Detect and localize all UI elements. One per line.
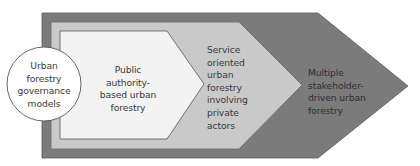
stage-label-line: oriented bbox=[207, 57, 287, 70]
stage-label-line: forestry bbox=[308, 105, 388, 118]
circle-label-line: Urban bbox=[4, 60, 84, 73]
stage-label-public-authority: Public authority- based urban forestry bbox=[88, 64, 168, 114]
stage-label-service-oriented: Service oriented urban forestry involvin… bbox=[207, 44, 287, 132]
stage-label-multiple-stakeholder: Multiple stakeholder- driven urban fores… bbox=[308, 67, 388, 117]
stage-label-line: Service bbox=[207, 44, 287, 57]
stage-label-line: involving bbox=[207, 94, 287, 107]
stage-label-line: Multiple bbox=[308, 67, 388, 80]
stage-label-line: Public bbox=[88, 64, 168, 77]
stage-label-line: based urban bbox=[88, 89, 168, 102]
circle-label-line: models bbox=[4, 98, 84, 111]
circle-label-line: governance bbox=[4, 85, 84, 98]
circle-label: Urban forestry governance models bbox=[4, 60, 84, 110]
stage-label-line: urban bbox=[207, 69, 287, 82]
circle-label-line: forestry bbox=[4, 73, 84, 86]
stage-label-line: authority- bbox=[88, 77, 168, 90]
stage-label-line: actors bbox=[207, 120, 287, 133]
stage-label-line: driven urban bbox=[308, 92, 388, 105]
stage-label-line: forestry bbox=[88, 102, 168, 115]
stage-label-line: private bbox=[207, 107, 287, 120]
stage-label-line: stakeholder- bbox=[308, 80, 388, 93]
governance-models-diagram: Urban forestry governance models Public … bbox=[0, 0, 420, 166]
stage-label-line: forestry bbox=[207, 82, 287, 95]
